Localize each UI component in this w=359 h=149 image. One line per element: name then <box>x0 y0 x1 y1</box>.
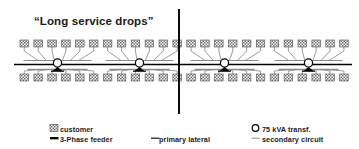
customer-square <box>103 40 112 47</box>
customer-square <box>270 74 279 81</box>
customer-square <box>187 74 196 81</box>
legend-label-secondary-circuit: secondary circuit <box>262 135 323 144</box>
customer-square <box>298 74 307 81</box>
customer-square <box>34 40 43 47</box>
customer-square <box>270 40 279 47</box>
customer-square <box>340 74 349 81</box>
figure-root: “Long service drops” customer 3-Phase fe… <box>0 0 359 149</box>
customer-square <box>173 74 182 81</box>
customer-square <box>229 74 238 81</box>
customer-square <box>215 74 224 81</box>
legend-symbol-customer <box>50 125 58 132</box>
customer-square <box>173 40 182 47</box>
customer-square <box>48 40 57 47</box>
legend-symbol-75-kva-transf <box>252 125 259 132</box>
customer-square <box>131 74 140 81</box>
customer-square <box>312 40 321 47</box>
customer-square <box>284 40 293 47</box>
customer-square <box>326 74 335 81</box>
customer-square <box>76 40 85 47</box>
legend-label-75-kva-transf: 75 kVA transf. <box>262 125 311 134</box>
customer-square <box>256 40 265 47</box>
customer-square <box>256 74 265 81</box>
customer-square <box>90 40 99 47</box>
customer-square <box>201 40 210 47</box>
customer-square <box>76 74 85 81</box>
customer-square <box>229 40 238 47</box>
customer-square <box>145 74 154 81</box>
customer-square <box>312 74 321 81</box>
customer-square <box>145 40 154 47</box>
customer-square <box>90 74 99 81</box>
customer-square <box>20 40 29 47</box>
customer-square <box>117 74 126 81</box>
customer-square <box>159 40 168 47</box>
legend-label-3-phase-feeder: 3-Phase feeder <box>60 135 113 144</box>
customer-square <box>117 40 126 47</box>
customer-square <box>298 40 307 47</box>
customer-square <box>62 74 70 81</box>
customer-square <box>48 74 57 81</box>
page-title: “Long service drops” <box>34 15 154 27</box>
customer-square <box>242 40 251 47</box>
legend-label-customer: customer <box>60 125 93 134</box>
customer-square <box>340 40 349 47</box>
customer-square <box>62 40 70 47</box>
customer-square <box>187 40 196 47</box>
customer-square <box>215 40 224 47</box>
customer-square <box>326 40 335 47</box>
customer-square <box>284 74 293 81</box>
customer-square <box>242 74 251 81</box>
customer-square <box>20 74 29 81</box>
customer-square <box>34 74 43 81</box>
legend-label-primary-lateral: primary lateral <box>159 135 210 144</box>
customer-square <box>103 74 112 81</box>
customer-square <box>201 74 210 81</box>
customer-square <box>131 40 140 47</box>
customer-square <box>159 74 168 81</box>
